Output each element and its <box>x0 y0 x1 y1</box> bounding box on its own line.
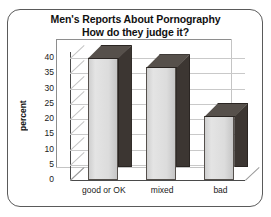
y-tick-label: 5 <box>20 160 54 169</box>
bar-front-face <box>204 116 234 180</box>
y-tick-label: 25 <box>20 99 54 108</box>
gridline <box>70 180 245 181</box>
bar-column <box>88 45 132 180</box>
depth-gridline <box>70 45 85 59</box>
bar-column <box>146 54 190 180</box>
back-wall-top-edge <box>56 39 231 40</box>
x-tick-label: bad <box>194 185 248 195</box>
x-tick-label: mixed <box>135 185 189 195</box>
back-wall-left-edge <box>56 39 57 167</box>
depth-gridline <box>70 121 85 135</box>
depth-gridline <box>70 91 85 105</box>
y-tick-label: 0 <box>20 175 54 184</box>
bar-front-face <box>88 58 118 180</box>
depth-gridline <box>70 152 85 166</box>
depth-gridline <box>70 106 85 120</box>
bar-side-face <box>118 45 132 167</box>
y-tick-label: 40 <box>20 53 54 62</box>
origin-depth-edge <box>70 167 85 181</box>
depth-gridline <box>70 60 85 74</box>
y-tick-label: 10 <box>20 145 54 154</box>
bar-front-face <box>146 67 176 180</box>
y-tick-label: 20 <box>20 114 54 123</box>
bar-side-face <box>176 54 190 167</box>
y-tick-label: 30 <box>20 84 54 93</box>
y-tick-label: 15 <box>20 129 54 138</box>
plot-area: 0510152025303540good or OKmixedbad <box>0 0 271 217</box>
chart-figure: Men's Reports About Pornography How do t… <box>0 0 271 217</box>
x-tick-label: good or OK <box>77 185 131 195</box>
depth-gridline <box>70 76 85 90</box>
depth-gridline <box>70 137 85 151</box>
y-tick-label: 35 <box>20 68 54 77</box>
bar-column <box>204 103 248 180</box>
